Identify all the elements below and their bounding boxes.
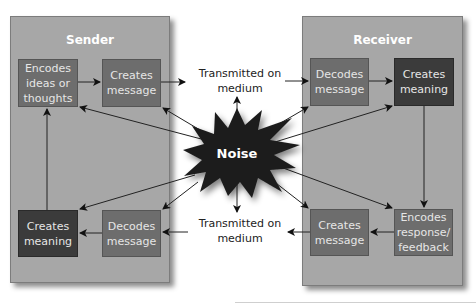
noise-label: Noise (207, 146, 267, 161)
bottom-rule (235, 302, 476, 303)
